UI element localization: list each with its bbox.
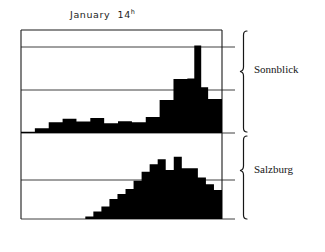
histogram-plots xyxy=(0,0,325,252)
brace-salzburg xyxy=(240,136,247,219)
sonnblick-bars xyxy=(21,45,222,133)
brace-sonnblick xyxy=(240,31,247,132)
panel-label-sonnblick: Sonnblick xyxy=(254,63,299,75)
panel-label-salzburg: Salzburg xyxy=(254,163,293,175)
histogram-salzburg xyxy=(21,157,222,219)
histogram-sonnblick xyxy=(21,45,222,133)
salzburg-bars xyxy=(21,157,222,219)
figure-root: January 14h xyxy=(0,0,325,252)
panel-braces xyxy=(240,31,247,219)
